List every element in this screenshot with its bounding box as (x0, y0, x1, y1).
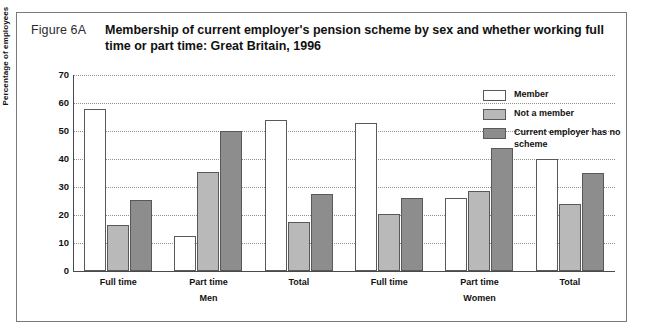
page-title: Membership of current employer's pension… (105, 23, 615, 54)
bar-noscheme (130, 200, 152, 271)
bar-notmember (468, 191, 490, 271)
y-tick-label-50: 50 (23, 125, 69, 136)
bar-noscheme (582, 173, 604, 271)
bar-group-women-part-time: Part time (434, 75, 524, 271)
y-axis-ticks: 010203040506070 (17, 75, 69, 272)
bar-notmember (107, 225, 129, 271)
legend-label-member: Member (514, 89, 644, 101)
bar-group-men-part-time: Part time (163, 75, 253, 271)
y-tick-label-70: 70 (23, 69, 69, 80)
legend-swatch-not-a-member (483, 109, 506, 120)
bar-noscheme (311, 194, 333, 271)
y-tick-label-40: 40 (23, 153, 69, 164)
bar-member (445, 198, 467, 271)
y-axis-line (73, 75, 74, 272)
bar-group-women-total: Total (525, 75, 615, 271)
figure-panel: Figure 6A Membership of current employer… (16, 12, 627, 322)
x-axis-line (73, 271, 615, 272)
legend-swatch-member (483, 90, 506, 101)
bar-noscheme (401, 198, 423, 271)
bar-notmember (197, 172, 219, 271)
y-tick-label-20: 20 (23, 209, 69, 220)
bar-notmember (559, 204, 581, 271)
plot-area: Full timePart timeTotalFull timePart tim… (73, 75, 615, 271)
x-axis-group-label-men: Men (129, 293, 289, 303)
x-tick-label: Total (510, 277, 630, 287)
x-axis-group-label-women: Women (400, 293, 560, 303)
legend-label-no-scheme: Current employer has no scheme (514, 127, 644, 150)
bar-group-men-full-time: Full time (73, 75, 163, 271)
y-axis-label: Percentage of employees (1, 0, 10, 131)
bar-group-men-total: Total (254, 75, 344, 271)
bar-noscheme (220, 131, 242, 271)
bar-member (84, 109, 106, 271)
y-tick-label-0: 0 (23, 265, 69, 276)
bar-noscheme (491, 148, 513, 271)
bar-notmember (378, 214, 400, 271)
bar-member (355, 123, 377, 271)
y-tick-label-30: 30 (23, 181, 69, 192)
bar-group-women-full-time: Full time (344, 75, 434, 271)
bar-member (265, 120, 287, 271)
legend-swatch-no-scheme (483, 128, 506, 139)
bar-member (174, 236, 196, 271)
y-tick-label-60: 60 (23, 97, 69, 108)
bar-member (536, 159, 558, 271)
figure-number: Figure 6A (31, 23, 105, 37)
bar-notmember (288, 222, 310, 271)
y-tick-label-10: 10 (23, 237, 69, 248)
legend-label-not-a-member: Not a member (514, 108, 644, 120)
